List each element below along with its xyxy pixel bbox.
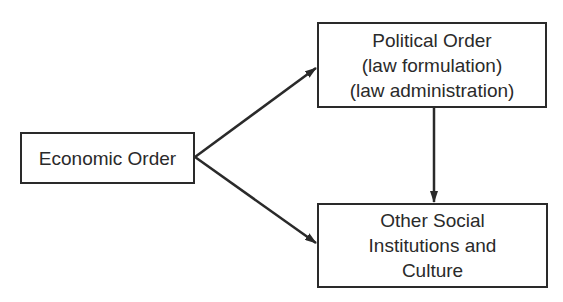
node-label-line: Culture [402,258,463,283]
arrow-economic-to-social [195,157,316,243]
node-economic-order: Economic Order [20,132,195,184]
node-label-line: (law administration) [350,78,515,103]
node-label-line: Institutions and [369,233,497,258]
node-label-line: Political Order [372,28,491,53]
node-label-line: Other Social [380,208,485,233]
arrow-economic-to-political [195,68,316,157]
node-label-line: Economic Order [39,146,176,171]
node-political-order: Political Order (law formulation) (law a… [317,22,547,108]
node-other-social-institutions: Other Social Institutions and Culture [317,203,548,288]
node-label-line: (law formulation) [362,53,502,78]
